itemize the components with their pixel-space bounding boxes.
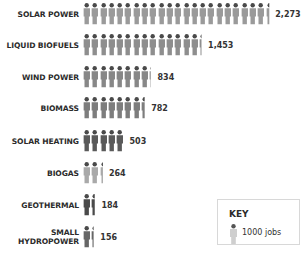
person-icon (100, 162, 104, 184)
person-icon (166, 34, 174, 56)
person-icon (199, 3, 207, 25)
person-icon (108, 66, 116, 88)
icon-row (83, 34, 203, 56)
person-icon (133, 97, 141, 119)
person-icon (100, 97, 108, 119)
person-icon (133, 66, 141, 88)
person-icon (224, 3, 232, 25)
person-icon (116, 34, 124, 56)
person-icon (91, 66, 99, 88)
row-label: GEOTHERMAL (0, 201, 79, 210)
person-icon (141, 66, 149, 88)
person-icon (191, 34, 199, 56)
person-icon (108, 130, 116, 152)
chart-row: WIND POWER (0, 66, 305, 88)
person-icon (91, 226, 95, 248)
person-icon (91, 130, 99, 152)
chart-row: LIQUID BIOFUELS (0, 34, 305, 56)
person-icon (108, 3, 116, 25)
person-icon (133, 3, 141, 25)
person-icon (191, 3, 199, 25)
person-icon (141, 97, 146, 119)
person-icon (83, 130, 91, 152)
row-label: LIQUID BIOFUELS (0, 41, 79, 50)
person-icon (166, 3, 174, 25)
person-icon (183, 3, 191, 25)
person-icon (174, 34, 182, 56)
icon-row (83, 194, 96, 216)
person-icon (108, 34, 116, 56)
person-icon (100, 66, 108, 88)
person-icon (83, 194, 91, 216)
person-icon (229, 224, 238, 248)
person-icon (216, 3, 224, 25)
person-icon (83, 66, 91, 88)
icon-row (83, 66, 152, 88)
row-value: 782 (151, 104, 168, 113)
person-icon (116, 97, 124, 119)
person-icon (199, 34, 203, 56)
icon-row (83, 97, 146, 119)
person-icon (100, 3, 108, 25)
chart-row: SOLAR POWER (0, 3, 305, 25)
person-icon (83, 3, 91, 25)
row-value: 264 (109, 169, 126, 178)
person-icon (108, 97, 116, 119)
person-icon (116, 3, 124, 25)
legend-key: KEY 1000 jobs (217, 199, 300, 245)
row-value: 503 (130, 137, 147, 146)
icon-row (83, 162, 104, 184)
person-icon (174, 3, 182, 25)
person-icon (124, 97, 132, 119)
row-label: BIOMASS (0, 104, 79, 113)
person-icon (149, 66, 152, 88)
icon-row (83, 226, 95, 248)
person-icon (124, 3, 132, 25)
person-icon (141, 34, 149, 56)
person-icon (83, 226, 91, 248)
person-icon (100, 130, 108, 152)
person-icon (91, 34, 99, 56)
row-value: 184 (101, 201, 118, 210)
person-icon (116, 66, 124, 88)
row-label: SMALLHYDROPOWER (0, 228, 79, 246)
person-icon (124, 66, 132, 88)
person-icon (124, 34, 132, 56)
person-icon (149, 34, 157, 56)
person-icon (91, 162, 99, 184)
person-icon (141, 3, 149, 25)
chart-row: SOLAR HEATING 503 (0, 130, 305, 152)
chart-row: BIOMASS (0, 97, 305, 119)
person-icon (116, 130, 124, 152)
row-label: SOLAR HEATING (0, 137, 79, 146)
row-value: 1,453 (208, 41, 233, 50)
row-label: BIOGAS (0, 169, 79, 178)
person-icon (100, 34, 108, 56)
person-icon (91, 3, 99, 25)
icon-row (83, 130, 124, 152)
person-icon (149, 3, 157, 25)
row-value: 156 (100, 233, 117, 242)
person-icon (241, 3, 249, 25)
row-value: 2,273 (275, 10, 300, 19)
person-icon (133, 34, 141, 56)
row-label: SOLAR POWER (0, 10, 79, 19)
person-icon (83, 97, 91, 119)
person-icon (183, 34, 191, 56)
row-label: WIND POWER (0, 73, 79, 82)
chart-row: BIOGAS 264 (0, 162, 305, 184)
person-icon (158, 3, 166, 25)
person-icon (83, 34, 91, 56)
person-icon (91, 97, 99, 119)
person-icon (83, 162, 91, 184)
icon-row (83, 3, 270, 25)
person-icon (249, 3, 257, 25)
person-icon (257, 3, 265, 25)
row-value: 834 (158, 73, 175, 82)
person-icon (207, 3, 215, 25)
person-icon (266, 3, 271, 25)
person-icon (158, 34, 166, 56)
person-icon (91, 194, 96, 216)
person-icon (232, 3, 240, 25)
legend-text: 1000 jobs (242, 228, 281, 237)
